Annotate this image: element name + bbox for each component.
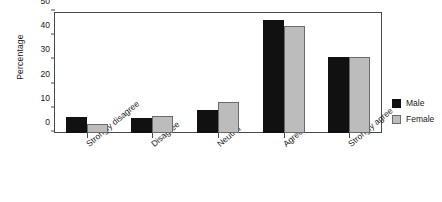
bar-male — [131, 118, 152, 133]
bar-male — [328, 57, 349, 133]
y-tick-label: 40 — [41, 20, 55, 30]
legend-swatch-female-icon — [392, 115, 401, 124]
legend-item-male: Male — [392, 98, 434, 108]
y-tick-label: 10 — [41, 93, 55, 103]
bar-group — [197, 12, 239, 133]
y-tick-mark — [51, 10, 55, 11]
y-tick-label: 50 — [41, 0, 55, 6]
bar-male — [66, 117, 87, 133]
y-axis-title: Percentage — [15, 7, 25, 107]
y-tick-label: 30 — [41, 44, 55, 54]
y-tick-label: 20 — [41, 69, 55, 79]
legend-label-male: Male — [406, 98, 424, 108]
bar-chart: Percentage 01020304050 Strongly disagree… — [0, 0, 442, 202]
legend-swatch-male-icon — [392, 99, 401, 108]
bar-female — [152, 116, 173, 133]
bar-female — [87, 124, 108, 133]
bar-female — [349, 57, 370, 133]
legend-label-female: Female — [406, 114, 434, 124]
bar-group — [328, 12, 370, 133]
bar-female — [284, 26, 305, 133]
bar-group — [66, 12, 108, 133]
bar-female — [218, 102, 239, 133]
chart-legend: Male Female — [392, 98, 434, 130]
bar-group — [131, 12, 173, 133]
bar-male — [263, 20, 284, 133]
bar-male — [197, 110, 218, 133]
legend-item-female: Female — [392, 114, 434, 124]
bar-group — [263, 12, 305, 133]
bars-layer — [54, 12, 382, 133]
